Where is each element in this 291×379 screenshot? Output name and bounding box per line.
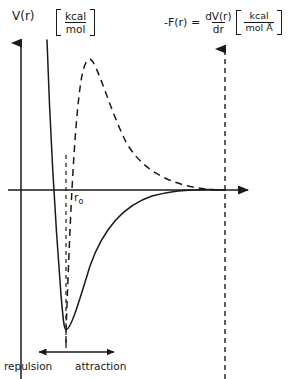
kcal-per-mol-fraction: kcal mol (62, 9, 89, 36)
potential-energy-units: kcal mol (56, 9, 95, 36)
bracket-left-icon (56, 9, 61, 36)
equilibrium-separation-subscript: o (79, 197, 84, 206)
potential-energy-axis-label: V(r) (12, 10, 35, 22)
kcal-per-mol-angstrom-fraction: kcal mol Å (242, 10, 275, 35)
attraction-region-label: attraction (75, 361, 126, 372)
potential-energy-curve (47, 40, 225, 330)
bracket-left-icon (236, 10, 241, 35)
bracket-right-icon (277, 10, 282, 35)
equilibrium-separation-label: ro (74, 192, 83, 206)
units-numerator: kcal (64, 10, 87, 22)
force-units-numerator: kcal (249, 11, 270, 22)
repulsion-region-label: repulsion (4, 361, 52, 372)
derivative-fraction: dV(r) dr (202, 9, 234, 36)
figure-canvas (0, 0, 291, 379)
potential-energy-figure: V(r) kcal mol -F(r) = dV(r) dr kcal mol … (0, 0, 291, 379)
force-curve (66, 59, 225, 332)
force-label-prefix: -F(r) = (164, 17, 200, 28)
force-axis-label: -F(r) = dV(r) dr kcal mol Å (164, 9, 282, 36)
derivative-denominator: dr (212, 22, 225, 35)
force-units-denominator: mol Å (244, 22, 273, 34)
bracket-right-icon (90, 9, 95, 36)
derivative-numerator: dV(r) (204, 10, 232, 22)
force-units: kcal mol Å (236, 10, 281, 35)
units-denominator: mol (65, 22, 87, 35)
